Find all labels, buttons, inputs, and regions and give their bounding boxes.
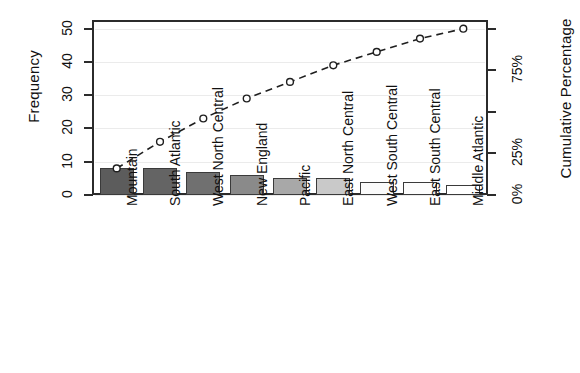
y-tick-right [487, 28, 496, 30]
y-tick-label-right: 75% [509, 47, 525, 91]
y-tick-left [84, 28, 93, 30]
y-tick-label-left: 20 [59, 110, 75, 144]
cumulative-marker [243, 95, 250, 102]
cumulative-marker [417, 35, 424, 42]
y-tick-left [84, 127, 93, 129]
cumulative-marker [330, 62, 337, 69]
x-tick-label: Pacific [297, 165, 313, 206]
y-tick-right [487, 111, 496, 113]
x-tick-label: West South Central [384, 85, 400, 206]
cumulative-marker [157, 138, 164, 145]
y-tick-left [84, 161, 93, 163]
x-tick-label: West North Central [210, 87, 226, 206]
cumulative-marker [200, 115, 207, 122]
cumulative-marker [113, 165, 120, 172]
y-tick-right [487, 194, 496, 196]
x-tick-label: New England [254, 123, 270, 206]
y-tick-label-right: 0% [509, 172, 525, 216]
y-tick-label-left: 0 [59, 177, 75, 211]
cumulative-marker [287, 79, 294, 86]
y-tick-right [487, 152, 496, 154]
cumulative-marker [460, 25, 467, 32]
y-tick-label-left: 10 [59, 144, 75, 178]
y-tick-right [487, 69, 496, 71]
x-tick-label: Mountain [124, 148, 140, 206]
y-tick-left [84, 94, 93, 96]
y-tick-left [84, 61, 93, 63]
y-axis-title-right: Cumulative Percentage [557, 0, 574, 199]
y-tick-label-left: 30 [59, 77, 75, 111]
y-axis-title-left: Frequency [25, 27, 42, 147]
y-tick-left [84, 194, 93, 196]
x-tick-label: Middle Atlantic [470, 116, 486, 206]
cumulative-marker [373, 49, 380, 56]
x-tick-label: East South Central [427, 88, 443, 206]
x-tick-label: East North Central [340, 91, 356, 206]
pareto-chart: Frequency Cumulative Percentage 01020304… [0, 0, 580, 373]
x-tick-label: South Atlantic [167, 120, 183, 206]
y-tick-label-right: 25% [509, 130, 525, 174]
y-tick-label-left: 40 [59, 44, 75, 78]
y-tick-label-left: 50 [59, 11, 75, 45]
